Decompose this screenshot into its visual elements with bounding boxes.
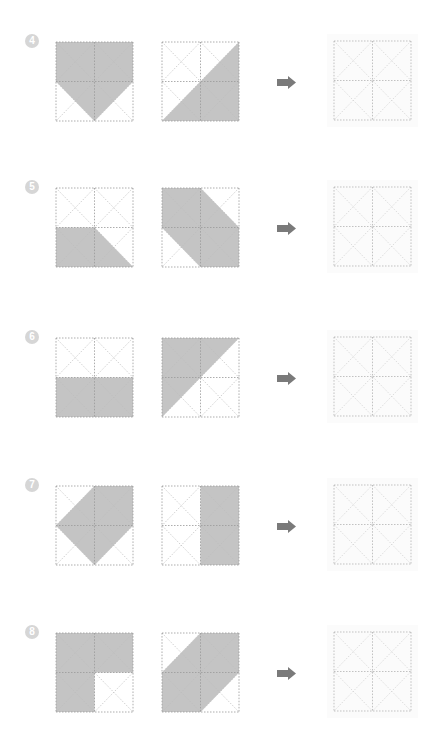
problem-row-8: 8 [0, 625, 443, 725]
answer-grid[interactable] [334, 41, 411, 120]
problem-row-4: 4 [0, 34, 443, 134]
shape-grid-a [56, 42, 133, 121]
right-arrow-icon [277, 666, 296, 679]
right-arrow-icon [277, 371, 296, 384]
problem-number-badge: 5 [25, 180, 39, 194]
shape-grid-b [162, 42, 239, 121]
answer-grid[interactable] [334, 632, 411, 711]
shape-grid-a [56, 188, 133, 267]
problem-number-badge: 6 [25, 330, 39, 344]
shape-grid-b [162, 338, 239, 417]
answer-grid[interactable] [334, 485, 411, 564]
right-arrow-icon [277, 519, 296, 532]
shape-grid-b [162, 486, 239, 565]
shape-grid-a [56, 633, 133, 712]
problem-number-badge: 7 [25, 478, 39, 492]
right-arrow-icon [277, 221, 296, 234]
right-arrow-icon [277, 75, 296, 88]
problem-row-6: 6 [0, 330, 443, 430]
shape-grid-a [56, 486, 133, 565]
answer-grid[interactable] [334, 337, 411, 416]
shape-grid-b [162, 633, 239, 712]
problem-number-badge: 4 [25, 34, 39, 48]
shape-grid-a [56, 338, 133, 417]
problem-row-5: 5 [0, 180, 443, 280]
answer-grid[interactable] [334, 187, 411, 266]
problem-number-badge: 8 [25, 625, 39, 639]
problem-row-7: 7 [0, 478, 443, 578]
shape-grid-b [162, 188, 239, 267]
